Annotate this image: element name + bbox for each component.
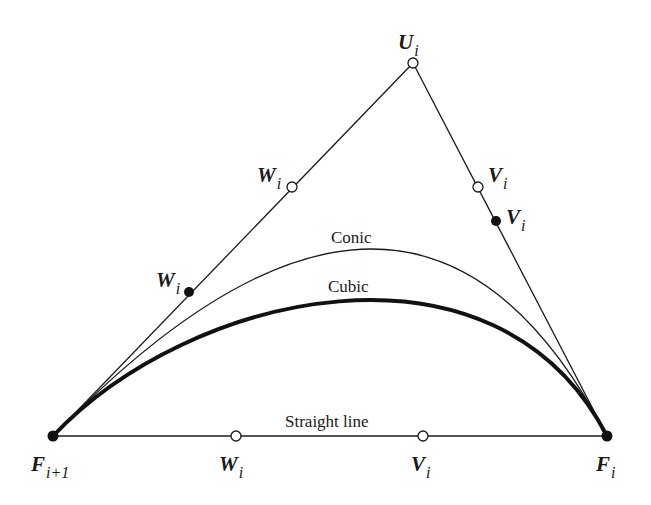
label-subscript: i	[176, 280, 180, 297]
label-v-right-filled: Vi	[506, 205, 525, 230]
point-v-base-marker	[418, 431, 428, 441]
label-subscript: i	[611, 464, 615, 481]
label-conic: Conic	[331, 228, 372, 248]
label-symbol: V	[488, 163, 502, 187]
label-symbol: W	[156, 268, 175, 292]
point-w-left-open-marker	[287, 182, 297, 192]
label-v-right-open: Vi	[488, 163, 507, 188]
label-subscript: i+1	[46, 464, 69, 481]
label-symbol: V	[411, 452, 425, 476]
point-v-right-filled-marker	[491, 216, 501, 226]
label-straight-line: Straight line	[285, 412, 369, 432]
label-subscript: i	[277, 175, 281, 192]
label-symbol: F	[596, 452, 610, 476]
label-symbol: W	[219, 452, 238, 476]
label-symbol: W	[257, 163, 276, 187]
point-f-next-marker	[48, 431, 59, 442]
label-symbol: U	[398, 30, 413, 54]
label-w-left-open: Wi	[257, 163, 281, 188]
edge-right	[413, 63, 607, 436]
label-w-base: Wi	[219, 452, 243, 477]
label-w-left-filled: Wi	[156, 268, 180, 293]
label-f-i: Fi	[596, 452, 615, 477]
label-v-base: Vi	[411, 452, 430, 477]
label-subscript: i	[414, 42, 418, 59]
label-symbol: V	[506, 205, 520, 229]
point-f-i-marker	[602, 431, 613, 442]
label-cubic: Cubic	[328, 277, 369, 297]
point-w-left-filled-marker	[184, 287, 194, 297]
point-v-right-open-marker	[473, 182, 483, 192]
diagram-canvas: Ui Wi Vi Vi Wi Conic Cubic Straight line…	[0, 0, 651, 505]
label-f-next: Fi+1	[31, 452, 69, 477]
point-w-base-marker	[231, 431, 241, 441]
label-symbol: F	[31, 452, 45, 476]
label-subscript: i	[503, 175, 507, 192]
label-subscript: i	[426, 464, 430, 481]
label-subscript: i	[521, 217, 525, 234]
point-u-i-marker	[408, 58, 418, 68]
label-u-i: Ui	[398, 30, 419, 55]
label-subscript: i	[239, 464, 243, 481]
